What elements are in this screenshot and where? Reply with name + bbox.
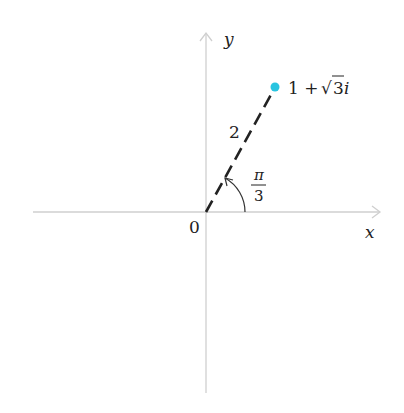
y-axis	[200, 33, 212, 393]
point-label: 1 + √ 3 i	[288, 76, 349, 98]
angle-numerator: π	[253, 166, 265, 184]
complex-plane-diagram: y x 0 2 1 + √ 3 i π 3	[0, 0, 404, 413]
diagram-svg: y x 0 2 1 + √ 3 i π 3	[0, 0, 404, 413]
point-label-imag: i	[344, 78, 349, 98]
point-label-real: 1 +	[288, 78, 324, 98]
angle-arc	[225, 178, 245, 212]
x-axis-label: x	[365, 222, 375, 242]
origin-label: 0	[189, 217, 200, 237]
point-label-sqrt: √	[321, 78, 332, 98]
point-label-radicand: 3	[333, 78, 344, 98]
modulus-label: 2	[229, 122, 240, 142]
angle-denominator: 3	[254, 187, 264, 205]
y-axis-label: y	[223, 29, 234, 49]
point-marker	[271, 83, 280, 92]
angle-label: π 3	[251, 166, 266, 205]
